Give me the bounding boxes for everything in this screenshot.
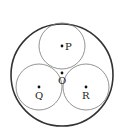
label-r: R xyxy=(82,90,90,101)
geometry-diagram: P O Q R xyxy=(0,0,124,134)
point-r xyxy=(85,86,88,89)
label-p: P xyxy=(65,41,72,52)
point-p xyxy=(61,45,64,48)
point-o xyxy=(61,72,64,75)
point-q xyxy=(38,86,41,89)
label-q: Q xyxy=(35,90,43,101)
label-o: O xyxy=(58,75,66,86)
